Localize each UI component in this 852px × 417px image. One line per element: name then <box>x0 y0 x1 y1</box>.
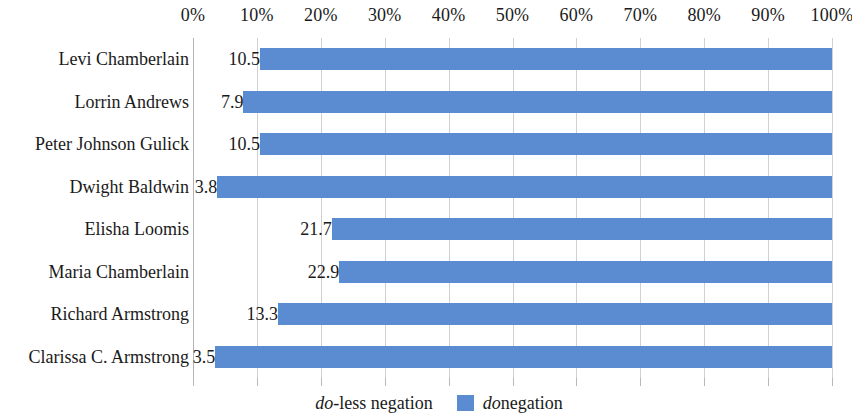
legend-swatch-icon <box>457 395 474 411</box>
legend-label-text: -less negation <box>333 392 432 414</box>
x-tick-label: 30% <box>368 4 402 26</box>
bar-value-label: 21.7 <box>193 208 337 251</box>
x-tick-label: 60% <box>560 4 594 26</box>
category-label-row: Elisha Loomis <box>0 208 193 251</box>
category-label: Levi Chamberlain <box>59 48 193 70</box>
category-label: Dwight Baldwin <box>70 176 194 198</box>
category-label-row: Lorrin Andrews <box>0 81 193 124</box>
x-tick-mark <box>321 378 322 386</box>
bar-value-label: 22.9 <box>193 251 344 294</box>
x-tick-mark <box>640 378 641 386</box>
category-label: Maria Chamberlain <box>49 261 193 283</box>
category-label: Lorrin Andrews <box>75 91 193 113</box>
x-tick-mark <box>257 378 258 386</box>
legend-label-italic: do <box>483 392 501 414</box>
value-label-row: 10.5 <box>193 123 832 166</box>
bar-value-label: 10.5 <box>193 38 265 81</box>
x-tick-label: 40% <box>432 4 466 26</box>
x-tick-label: 100% <box>811 4 852 26</box>
x-tick-mark <box>576 378 577 386</box>
value-label-row: 13.3 <box>193 293 832 336</box>
x-tick-mark <box>449 378 450 386</box>
x-tick-mark <box>193 378 194 386</box>
x-tick-label: 90% <box>751 4 785 26</box>
value-label-row: 22.9 <box>193 251 832 294</box>
chart-legend: do-less negationdo negation <box>0 388 852 417</box>
data-value-labels: 10.57.910.53.821.722.913.33.5 <box>193 38 832 378</box>
x-tick-mark <box>768 378 769 386</box>
value-label-row: 3.5 <box>193 336 832 379</box>
category-label: Elisha Loomis <box>85 218 194 240</box>
category-label-row: Dwight Baldwin <box>0 166 193 209</box>
category-label-row: Peter Johnson Gulick <box>0 123 193 166</box>
x-tick-label: 20% <box>304 4 338 26</box>
legend-item[interactable]: do-less negation <box>289 392 432 414</box>
x-axis-tick-labels: 0%10%20%30%40%50%60%70%80%90%100% <box>0 0 852 38</box>
x-tick-label: 0% <box>181 4 205 26</box>
category-label-row: Clarissa C. Armstrong <box>0 336 193 379</box>
category-label-row: Levi Chamberlain <box>0 38 193 81</box>
value-label-row: 10.5 <box>193 38 832 81</box>
category-axis-labels: Levi ChamberlainLorrin AndrewsPeter John… <box>0 38 193 378</box>
category-label-row: Maria Chamberlain <box>0 251 193 294</box>
category-label: Richard Armstrong <box>51 303 193 325</box>
x-tick-mark <box>704 378 705 386</box>
x-tick-mark <box>832 378 833 386</box>
category-label-row: Richard Armstrong <box>0 293 193 336</box>
x-tick-mark <box>385 378 386 386</box>
bar-chart: 0%10%20%30%40%50%60%70%80%90%100% Levi C… <box>0 0 852 417</box>
value-label-row: 21.7 <box>193 208 832 251</box>
bar-value-label: 3.5 <box>193 336 220 379</box>
x-tick-mark <box>513 378 514 386</box>
legend-label-text: negation <box>501 392 563 414</box>
category-label: Clarissa C. Armstrong <box>29 346 194 368</box>
bar-value-label: 3.8 <box>193 166 222 209</box>
x-tick-label: 70% <box>623 4 657 26</box>
x-tick-label: 10% <box>240 4 274 26</box>
bar-value-label: 10.5 <box>193 123 265 166</box>
bar-value-label: 7.9 <box>193 81 248 124</box>
gridline <box>832 38 833 378</box>
x-tick-label: 80% <box>687 4 721 26</box>
category-label: Peter Johnson Gulick <box>35 133 193 155</box>
bar-value-label: 13.3 <box>193 293 283 336</box>
value-label-row: 7.9 <box>193 81 832 124</box>
legend-label-italic: do <box>315 392 333 414</box>
legend-swatch-icon <box>289 395 306 411</box>
value-label-row: 3.8 <box>193 166 832 209</box>
legend-item[interactable]: do negation <box>457 392 563 414</box>
x-tick-label: 50% <box>496 4 530 26</box>
